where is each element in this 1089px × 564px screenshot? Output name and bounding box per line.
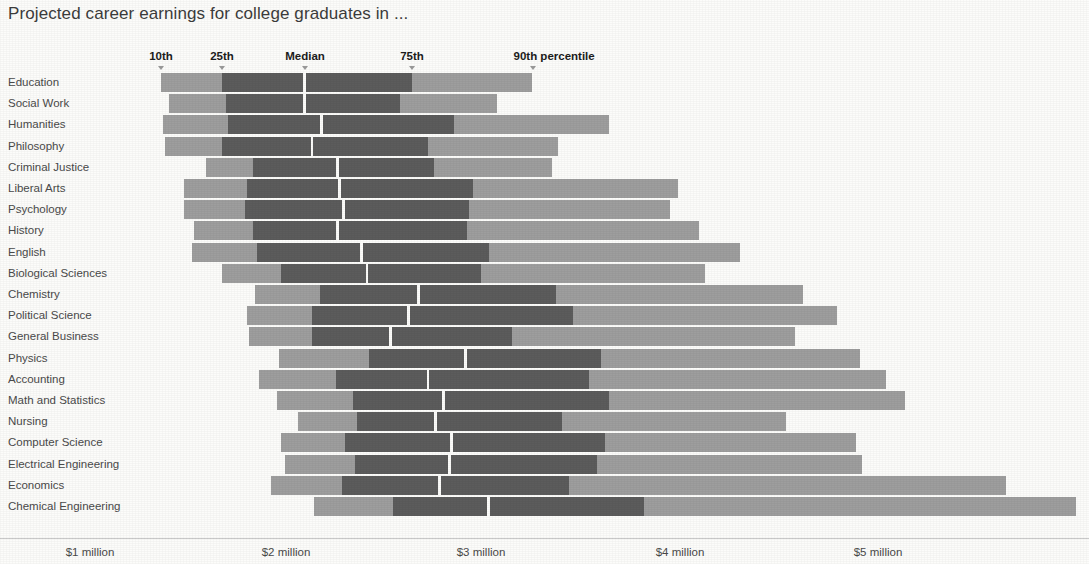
table-row <box>0 455 1089 474</box>
band-p25-median <box>228 115 322 134</box>
band-p10-p25 <box>184 200 245 219</box>
band-p25-median <box>342 476 440 495</box>
band-median-p75 <box>450 455 597 474</box>
table-row <box>0 115 1089 134</box>
band-p75-p90 <box>589 370 886 389</box>
median-marker <box>303 94 306 113</box>
chart-root: Projected career earnings for college gr… <box>0 0 1089 564</box>
table-row <box>0 306 1089 325</box>
band-median-p75 <box>452 433 605 452</box>
band-p25-median <box>336 370 428 389</box>
x-axis-tick-label: $2 million <box>262 546 311 558</box>
median-marker <box>336 158 339 177</box>
median-marker <box>434 412 437 431</box>
table-row <box>0 243 1089 262</box>
band-p75-p90 <box>556 285 804 304</box>
band-median-p75 <box>338 158 434 177</box>
median-marker <box>366 264 369 283</box>
band-median-p75 <box>444 391 609 410</box>
band-p10-p25 <box>169 94 226 113</box>
band-p75-p90 <box>400 94 496 113</box>
band-p25-median <box>253 221 337 240</box>
table-row <box>0 370 1089 389</box>
band-median-p75 <box>428 370 589 389</box>
median-marker <box>336 221 339 240</box>
band-p75-p90 <box>512 327 795 346</box>
band-p10-p25 <box>206 158 253 177</box>
band-p10-p25 <box>314 497 393 516</box>
band-p25-median <box>257 243 361 262</box>
band-p25-median <box>247 179 339 198</box>
x-axis-tick-label: $4 million <box>656 546 705 558</box>
median-marker <box>342 200 345 219</box>
band-p75-p90 <box>601 349 860 368</box>
median-marker <box>442 391 445 410</box>
table-row <box>0 158 1089 177</box>
band-p10-p25 <box>249 327 312 346</box>
band-p10-p25 <box>165 137 222 156</box>
band-p10-p25 <box>277 391 354 410</box>
band-p75-p90 <box>467 221 699 240</box>
table-row <box>0 497 1089 516</box>
band-p10-p25 <box>255 285 320 304</box>
band-p10-p25 <box>271 476 342 495</box>
band-median-p75 <box>418 285 556 304</box>
band-p75-p90 <box>609 391 906 410</box>
table-row <box>0 349 1089 368</box>
band-p25-median <box>369 349 465 368</box>
band-p25-median <box>245 200 343 219</box>
table-row <box>0 73 1089 92</box>
band-p75-p90 <box>469 200 669 219</box>
band-p10-p25 <box>163 115 228 134</box>
band-p25-median <box>355 455 449 474</box>
band-p25-median <box>353 391 443 410</box>
x-axis-tick-label: $1 million <box>66 546 115 558</box>
band-p10-p25 <box>192 243 257 262</box>
band-p75-p90 <box>412 73 532 92</box>
table-row <box>0 476 1089 495</box>
band-median-p75 <box>343 200 469 219</box>
band-p25-median <box>281 264 367 283</box>
band-median-p75 <box>465 349 601 368</box>
band-median-p75 <box>312 137 428 156</box>
band-p10-p25 <box>194 221 253 240</box>
median-marker <box>320 115 323 134</box>
band-p10-p25 <box>298 412 357 431</box>
median-marker <box>427 370 430 389</box>
band-p10-p25 <box>285 455 356 474</box>
x-axis-tick-label: $5 million <box>854 546 903 558</box>
table-row <box>0 179 1089 198</box>
median-marker <box>450 433 453 452</box>
table-row <box>0 221 1089 240</box>
table-row <box>0 433 1089 452</box>
band-p10-p25 <box>222 264 281 283</box>
band-median-p75 <box>408 306 573 325</box>
band-p75-p90 <box>644 497 1076 516</box>
band-p75-p90 <box>454 115 609 134</box>
band-median-p75 <box>304 94 400 113</box>
band-p25-median <box>312 306 408 325</box>
band-p75-p90 <box>573 306 836 325</box>
band-median-p75 <box>391 327 513 346</box>
median-marker <box>360 243 363 262</box>
band-p25-median <box>222 73 305 92</box>
median-marker <box>487 497 490 516</box>
band-median-p75 <box>304 73 412 92</box>
band-median-p75 <box>489 497 644 516</box>
table-row <box>0 391 1089 410</box>
band-p10-p25 <box>281 433 346 452</box>
band-p25-median <box>345 433 451 452</box>
median-marker <box>407 306 410 325</box>
median-marker <box>338 179 341 198</box>
band-p75-p90 <box>569 476 1005 495</box>
band-median-p75 <box>340 179 474 198</box>
table-row <box>0 200 1089 219</box>
band-p25-median <box>357 412 436 431</box>
band-p75-p90 <box>597 455 862 474</box>
median-marker <box>311 137 314 156</box>
band-median-p75 <box>338 221 468 240</box>
band-p75-p90 <box>473 179 677 198</box>
band-median-p75 <box>361 243 489 262</box>
table-row <box>0 94 1089 113</box>
band-p75-p90 <box>481 264 705 283</box>
